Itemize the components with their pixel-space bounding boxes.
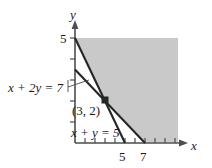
figure-container: x + 2y = 7 x + y = 5 (3, 2) 5 7 5 x y [0,0,212,168]
x-tick-label-7: 7 [140,150,147,163]
x-tick-label-5: 5 [119,150,126,163]
y-axis-label: y [70,8,76,21]
x-axis-arrow-icon [179,140,188,147]
label-equation-x-plus-y-equals-5: x + y = 5 [71,126,120,139]
label-intersection-point: (3, 2) [72,104,100,117]
label-equation-x-plus-2y-equals-7: x + 2y = 7 [8,81,63,94]
leader-line-equation-7 [68,80,89,87]
intersection-point-marker [102,97,109,104]
y-tick-label-5: 5 [60,32,67,45]
x-axis-label: x [191,139,197,152]
